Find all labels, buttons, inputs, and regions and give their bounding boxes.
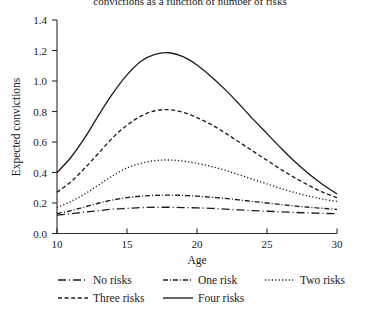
curve-one-risk [57,195,337,214]
legend-label: Two risks [300,274,345,286]
x-axis-tick-labels: 10 15 20 25 30 [52,238,344,250]
curve-no-risks [57,207,337,215]
y-tick-label: 0.6 [33,136,47,148]
legend-label: Four risks [198,292,245,304]
data-curves [57,53,337,216]
curve-four-risks [57,53,337,194]
y-axis-tick-labels: 1.4 1.2 1.0 0.8 0.6 0.4 0.2 0.0 [33,14,47,240]
y-axis-ticks [52,20,57,234]
chart-canvas: 1.4 1.2 1.0 0.8 0.6 0.4 0.2 0.0 10 15 20… [0,0,380,310]
x-tick-label: 30 [332,238,344,250]
x-axis-ticks [57,229,337,234]
legend-label: Three risks [93,292,145,304]
chart-legend: No risks One risk Two risks Three risks … [58,274,345,304]
x-tick-label: 20 [192,238,204,250]
y-tick-label: 1.4 [33,14,47,26]
y-tick-label: 0.8 [33,106,47,118]
chart-title: convictions as a function of number of r… [0,0,380,8]
y-tick-label: 1.2 [33,45,47,57]
y-axis-title: Expected convictions [10,77,23,176]
y-tick-label: 0.4 [33,167,47,179]
x-axis-title: Age [187,254,206,267]
y-tick-label: 0.0 [33,228,47,240]
chart-figure: convictions as a function of number of r… [0,0,380,310]
legend-item-one-risk[interactable]: One risk [163,274,238,286]
legend-label: No risks [93,274,132,286]
legend-item-four-risks[interactable]: Four risks [163,292,245,304]
x-tick-label: 25 [262,238,274,250]
x-tick-label: 15 [122,238,134,250]
y-tick-label: 1.0 [33,75,47,87]
legend-item-three-risks[interactable]: Three risks [58,292,145,304]
legend-item-two-risks[interactable]: Two risks [265,274,345,286]
curve-two-risks [57,160,337,208]
legend-item-no-risks[interactable]: No risks [58,274,132,286]
legend-label: One risk [198,274,238,286]
x-tick-label: 10 [52,238,64,250]
y-tick-label: 0.2 [33,197,47,209]
